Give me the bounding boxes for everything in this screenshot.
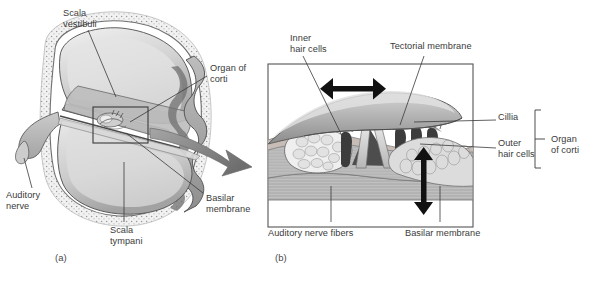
panel-mark-a: (a) xyxy=(55,252,67,263)
label-outer-hair-cells: Outer hair cells xyxy=(498,138,535,159)
label-organ-of-corti-bracket: Organ of corti xyxy=(551,134,579,155)
label-inner-hair-cells: Inner hair cells xyxy=(290,33,327,54)
label-scala-vestibuli: Scala vestibuli xyxy=(63,8,97,29)
label-basilar-membrane-detail: Basilar membrane xyxy=(405,228,480,239)
label-basilar-membrane: Basilar membrane xyxy=(206,193,250,214)
label-auditory-nerve: Auditory nerve xyxy=(6,190,40,211)
label-auditory-nerve-fibers: Auditory nerve fibers xyxy=(268,228,353,239)
panel-mark-b: (b) xyxy=(275,252,287,263)
label-scala-tympani: Scala tympani xyxy=(110,225,143,246)
label-cillia: Cillia xyxy=(498,112,518,123)
label-organ-of-corti: Organ of corti xyxy=(210,63,246,84)
label-tectorial-membrane: Tectorial membrane xyxy=(390,41,472,52)
